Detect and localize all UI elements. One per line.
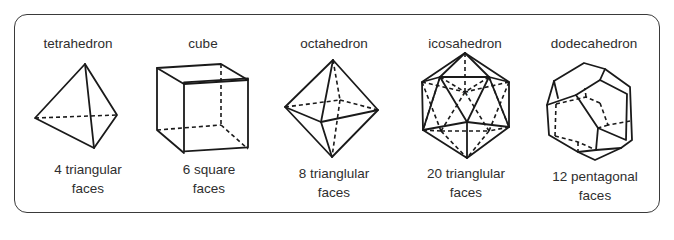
faces-caption-cube: 6 square faces: [183, 160, 236, 198]
faces-word-text: faces: [427, 183, 505, 202]
faces-count-text: 8 trianglular: [299, 164, 370, 183]
faces-caption-octahedron: 8 trianglular faces: [299, 164, 370, 202]
faces-word-text: faces: [183, 179, 236, 198]
faces-caption-dodecahedron: 12 pentagonal faces: [552, 167, 638, 205]
solid-name-octahedron: octahedron: [300, 36, 368, 51]
faces-count-text: 12 pentagonal: [552, 167, 638, 186]
faces-count-text: 4 triangular: [54, 160, 122, 179]
svg-text:☆: ☆: [461, 88, 469, 98]
faces-word-text: faces: [299, 183, 370, 202]
icosahedron-icon: ☆: [422, 53, 509, 158]
tetrahedron-icon: [35, 64, 117, 148]
dodecahedron-icon: [547, 63, 632, 160]
faces-word-text: faces: [54, 179, 122, 198]
faces-word-text: faces: [552, 186, 638, 205]
octahedron-icon: [285, 60, 378, 157]
solid-name-icosahedron: icosahedron: [428, 36, 502, 51]
cube-icon: [157, 64, 248, 153]
faces-count-text: 6 square: [183, 160, 236, 179]
faces-count-text: 20 trianglular: [427, 164, 505, 183]
faces-caption-icosahedron: 20 trianglular faces: [427, 164, 505, 202]
solid-name-cube: cube: [188, 36, 217, 51]
solid-name-tetrahedron: tetrahedron: [43, 36, 112, 51]
solid-name-dodecahedron: dodecahedron: [551, 36, 637, 51]
faces-caption-tetrahedron: 4 triangular faces: [54, 160, 122, 198]
